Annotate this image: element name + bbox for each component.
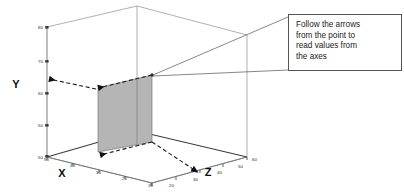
y-axis-tick — [45, 124, 48, 127]
projection-segment-z — [152, 142, 193, 169]
y-tick-label: 60 — [38, 91, 43, 96]
callout-leader-upper — [153, 17, 288, 75]
z-tick-label: 50 — [238, 164, 243, 169]
y-tick-label: 50 — [38, 123, 43, 128]
x-tick-label: 10 — [148, 183, 153, 188]
box-top-back-edges — [47, 6, 247, 35]
y-tick-label: 50 — [38, 155, 43, 160]
callout-leader-lines — [153, 17, 288, 76]
callout-text: Follow the arrows from the point to read… — [296, 20, 397, 62]
z-axis: 20 30 40 50 60 Z — [152, 157, 257, 188]
y-tick-label: 80 — [38, 25, 43, 30]
z-tick-label: 40 — [217, 170, 222, 175]
z-tick-label: 30 — [193, 177, 198, 182]
x-tick-label: 50 — [44, 157, 49, 162]
x-tick-label: 20 — [122, 176, 127, 181]
projection-arrow-z — [152, 142, 193, 169]
y-axis-tick — [45, 60, 48, 63]
y-tick-label: 70 — [38, 59, 43, 64]
x-tick-label: 30 — [96, 170, 101, 175]
y-axis-label: Y — [12, 78, 20, 90]
figure-canvas: 80 70 60 50 50 Y 50 40 30 20 10 X — [0, 0, 404, 192]
z-axis-line — [152, 157, 247, 183]
callout-box: Follow the arrows from the point to read… — [288, 14, 402, 71]
z-tick-label: 20 — [169, 183, 174, 188]
callout-leader-lower — [153, 70, 288, 76]
z-axis-label: Z — [205, 166, 212, 178]
x-axis: 50 40 30 20 10 X — [44, 157, 153, 188]
x-axis-label: X — [58, 167, 66, 179]
x-tick-label: 40 — [70, 163, 75, 168]
projection-segment-y-outer — [49, 79, 96, 89]
z-tick-label: 60 — [252, 157, 257, 162]
y-axis: 80 70 60 50 50 Y — [12, 25, 48, 160]
y-axis-tick — [45, 26, 48, 29]
y-axis-tick — [45, 92, 48, 95]
